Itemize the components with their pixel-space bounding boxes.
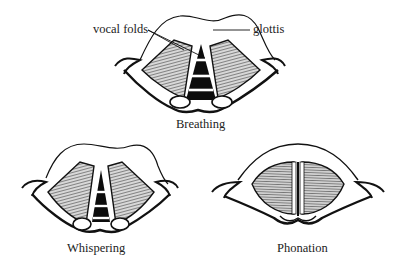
- breathing-caption: Breathing: [176, 117, 225, 132]
- glottis-label: glottis: [253, 22, 284, 37]
- phonation-caption: Phonation: [277, 241, 328, 256]
- whispering-figure: [18, 140, 182, 236]
- whispering-caption: Whispering: [67, 241, 125, 256]
- vocal-folds-label: vocal folds: [93, 22, 148, 37]
- larynx-whispering-illustration: [18, 140, 182, 236]
- phonation-figure: [208, 140, 388, 230]
- annotation-leader-lines: [0, 0, 400, 130]
- larynx-phonation-illustration: [208, 140, 388, 230]
